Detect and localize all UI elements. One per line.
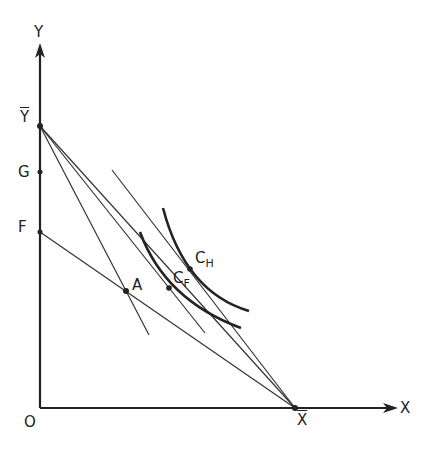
label-a: A — [132, 278, 142, 293]
curve-cf — [140, 232, 241, 328]
label-ch: CH — [195, 251, 214, 266]
line-ybar-xbar — [40, 126, 295, 408]
line-ybar-a — [40, 126, 149, 335]
y-axis-label: Y — [34, 25, 43, 40]
label-g: G — [18, 165, 30, 180]
line-ybar-cf — [40, 126, 205, 333]
line-f-xbar — [40, 232, 295, 408]
label-ybar: Y — [20, 110, 29, 125]
label-ch-sub: H — [205, 257, 213, 270]
origin-label: O — [24, 415, 36, 430]
label-ch-main: C — [195, 249, 205, 267]
diagram-canvas — [0, 0, 428, 451]
x-axis-label: X — [400, 401, 410, 416]
point-cf — [166, 285, 172, 291]
label-cf-sub: F — [183, 277, 189, 290]
label-cf: CF — [173, 271, 190, 286]
point-a — [123, 288, 129, 294]
point-f — [38, 230, 43, 235]
label-xbar: X — [297, 413, 307, 428]
point-g — [38, 170, 43, 175]
label-f: F — [18, 220, 27, 235]
label-cf-main: C — [173, 269, 183, 287]
point-ybar — [37, 123, 43, 129]
